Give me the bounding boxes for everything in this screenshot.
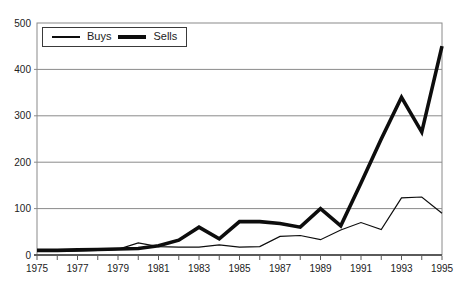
legend-label-sells: Sells — [153, 31, 177, 43]
sells-line-sample-icon — [118, 35, 146, 39]
x-axis-tick-label: 1987 — [269, 263, 292, 274]
y-axis-tick-label: 0 — [25, 250, 31, 261]
x-axis-tick-label: 1981 — [147, 263, 170, 274]
x-axis-tick-label: 1975 — [26, 263, 49, 274]
x-axis-tick-label: 1983 — [188, 263, 211, 274]
y-axis-tick-label: 500 — [14, 18, 31, 29]
buys-line-sample-icon — [52, 36, 80, 38]
x-axis-tick-label: 1979 — [107, 263, 130, 274]
y-axis-tick-label: 400 — [14, 64, 31, 75]
chart-legend: Buys Sells — [42, 27, 187, 47]
y-axis-tick-label: 100 — [14, 203, 31, 214]
line-chart-figure: 0100200300400500197519771979198119831985… — [0, 0, 470, 288]
x-axis-tick-label: 1991 — [350, 263, 373, 274]
x-axis-tick-label: 1977 — [66, 263, 89, 274]
x-axis-tick-label: 1989 — [309, 263, 332, 274]
legend-label-buys: Buys — [87, 31, 111, 43]
x-axis-tick-label: 1985 — [228, 263, 251, 274]
y-axis-tick-label: 300 — [14, 110, 31, 121]
x-axis-tick-label: 1993 — [390, 263, 413, 274]
x-axis-tick-label: 1995 — [431, 263, 454, 274]
y-axis-tick-label: 200 — [14, 157, 31, 168]
